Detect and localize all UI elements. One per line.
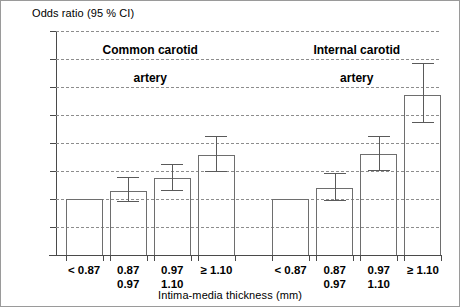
x-tick-mark	[404, 255, 405, 261]
y-tick-mark	[50, 31, 56, 32]
x-tick-label: 0.971.10	[161, 263, 183, 291]
x-tick-label-line1: < 0.87	[274, 263, 306, 277]
y-tick-mark	[50, 171, 56, 172]
error-bar-cap-bottom	[161, 190, 183, 191]
plot-area: 00,511,522,533,54 < 0.870.870.970.971.10…	[56, 31, 439, 255]
error-bar-cap-bottom	[324, 200, 346, 201]
x-tick-label: 0.971.10	[368, 263, 390, 291]
error-bar	[368, 136, 390, 171]
error-bar	[161, 164, 183, 191]
error-bar-cap-bottom	[368, 170, 390, 171]
group-title-line1: Common carotid	[103, 43, 198, 57]
x-tick-label-line1: 0.97	[368, 263, 390, 277]
x-tick-label-line1: 0.87	[117, 263, 139, 277]
error-bar	[324, 173, 346, 201]
error-bar-cap-top	[412, 63, 434, 64]
error-bar-stem	[335, 173, 336, 201]
x-tick-label: ≥ 1.10	[200, 263, 232, 277]
x-tick-label: 0.870.97	[117, 263, 139, 291]
x-tick-mark	[441, 255, 442, 261]
x-tick-mark	[360, 255, 361, 261]
x-tick-mark	[316, 255, 317, 261]
y-tick-mark	[50, 59, 56, 60]
error-bar-cap-top	[117, 177, 139, 178]
group-title-line1: Internal carotid	[313, 43, 400, 57]
x-tick-mark	[191, 255, 192, 261]
error-bar-stem	[128, 177, 129, 203]
x-tick-mark	[353, 255, 354, 261]
x-tick-mark	[66, 255, 67, 261]
gridline	[56, 31, 439, 32]
y-tick-mark	[50, 143, 56, 144]
error-bar	[412, 63, 434, 123]
x-tick-label: < 0.87	[274, 263, 306, 277]
x-tick-label: 0.870.97	[323, 263, 345, 291]
x-tick-mark	[309, 255, 310, 261]
y-tick-mark	[50, 115, 56, 116]
x-tick-label-line1: < 0.87	[68, 263, 100, 277]
x-tick-mark	[103, 255, 104, 261]
error-bar	[117, 177, 139, 203]
error-bar-stem	[379, 136, 380, 171]
x-tick-mark	[110, 255, 111, 261]
error-bar-stem	[216, 136, 217, 172]
x-tick-label-line1: ≥ 1.10	[407, 263, 439, 277]
x-tick-label: ≥ 1.10	[407, 263, 439, 277]
chart-title: Odds ratio (95 % CI)	[32, 7, 134, 19]
bar	[66, 199, 103, 255]
y-tick-mark	[50, 255, 56, 256]
gridline	[56, 115, 439, 116]
x-tick-mark	[198, 255, 199, 261]
gridline	[56, 59, 439, 60]
error-bar-cap-bottom	[412, 122, 434, 123]
error-bar-cap-top	[205, 136, 227, 137]
error-bar-stem	[423, 63, 424, 123]
error-bar-stem	[172, 164, 173, 191]
error-bar	[205, 136, 227, 172]
error-bar-cap-bottom	[117, 201, 139, 202]
x-axis-line	[49, 255, 441, 256]
y-tick-mark	[50, 199, 56, 200]
x-tick-label-line1: 0.97	[161, 263, 183, 277]
x-tick-label-line1: ≥ 1.10	[200, 263, 232, 277]
x-tick-label: < 0.87	[68, 263, 100, 277]
x-tick-mark	[235, 255, 236, 261]
x-tick-mark	[154, 255, 155, 261]
gridline	[56, 87, 439, 88]
error-bar-cap-bottom	[205, 171, 227, 172]
error-bar-cap-top	[368, 136, 390, 137]
x-tick-label-line1: 0.87	[323, 263, 345, 277]
y-tick-mark	[50, 87, 56, 88]
x-tick-mark	[397, 255, 398, 261]
y-tick-mark	[50, 227, 56, 228]
group-title-line2: artery	[134, 71, 167, 85]
x-axis-title: Intima-media thickness (mm)	[1, 289, 459, 301]
error-bar-cap-top	[161, 164, 183, 165]
bar	[272, 199, 309, 255]
error-bar-cap-top	[324, 173, 346, 174]
x-tick-mark	[272, 255, 273, 261]
group-title-line2: artery	[340, 71, 373, 85]
x-tick-mark	[147, 255, 148, 261]
figure-canvas: Odds ratio (95 % CI) 00,511,522,533,54 <…	[0, 0, 460, 307]
